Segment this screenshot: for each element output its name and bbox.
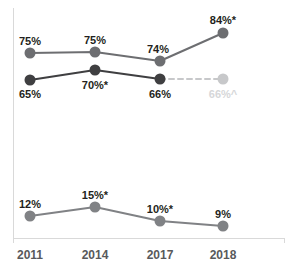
series-line-0 xyxy=(30,33,223,61)
data-point-label: 12% xyxy=(19,198,41,210)
data-point-label: 75% xyxy=(84,34,106,46)
data-point-label: 66%^ xyxy=(209,88,238,100)
chart-x-axis-tick-labels: 2011201420172018 xyxy=(17,248,237,262)
data-point-marker xyxy=(218,74,229,85)
x-axis-label-2014: 2014 xyxy=(82,248,109,262)
chart-point-labels: 75%75%74%84%*65%70%*66%66%^12%15%*10%*9% xyxy=(19,14,238,220)
data-point-label: 84%* xyxy=(210,14,237,26)
x-axis-label-2018: 2018 xyxy=(210,248,237,262)
data-point-marker xyxy=(25,211,36,222)
chart-series-lines xyxy=(30,33,223,226)
data-point-label: 65% xyxy=(19,88,41,100)
data-point-marker xyxy=(90,65,101,76)
line-chart: 75%75%74%84%*65%70%*66%66%^12%15%*10%*9%… xyxy=(0,0,294,270)
data-point-marker xyxy=(25,75,36,86)
data-point-label: 66% xyxy=(149,88,171,100)
data-point-label: 15%* xyxy=(82,189,109,201)
data-point-marker xyxy=(218,221,229,232)
data-point-label: 9% xyxy=(215,208,231,220)
data-point-marker xyxy=(90,47,101,58)
x-axis-label-2017: 2017 xyxy=(147,248,174,262)
data-point-label: 75% xyxy=(19,35,41,47)
data-point-label: 70%* xyxy=(82,79,109,91)
data-point-marker xyxy=(155,74,166,85)
data-point-label: 10%* xyxy=(147,203,174,215)
chart-canvas: 75%75%74%84%*65%70%*66%66%^12%15%*10%*9%… xyxy=(0,0,294,270)
x-axis-label-2011: 2011 xyxy=(17,248,43,262)
data-point-label: 74% xyxy=(147,43,169,55)
data-point-marker xyxy=(155,56,166,67)
data-point-marker xyxy=(25,48,36,59)
data-point-marker xyxy=(218,28,229,39)
data-point-marker xyxy=(90,202,101,213)
series-line-2 xyxy=(30,207,223,226)
chart-series-markers xyxy=(25,28,229,232)
data-point-marker xyxy=(155,216,166,227)
